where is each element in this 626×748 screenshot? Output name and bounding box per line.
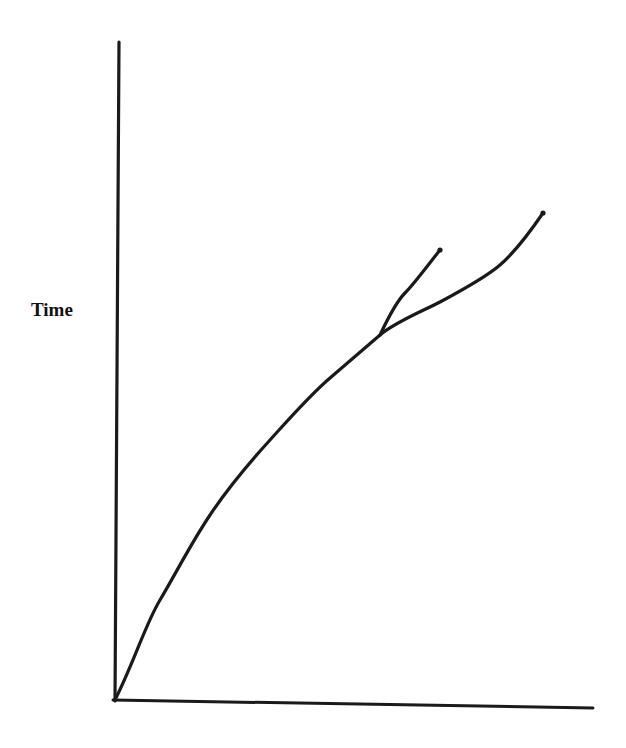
x-axis <box>113 700 593 708</box>
diagram-canvas <box>0 0 626 748</box>
main-curve <box>115 213 543 700</box>
branch-curve <box>380 250 440 335</box>
branch-endpoint <box>437 247 442 252</box>
main-endpoint <box>540 210 545 215</box>
y-axis <box>115 42 119 701</box>
